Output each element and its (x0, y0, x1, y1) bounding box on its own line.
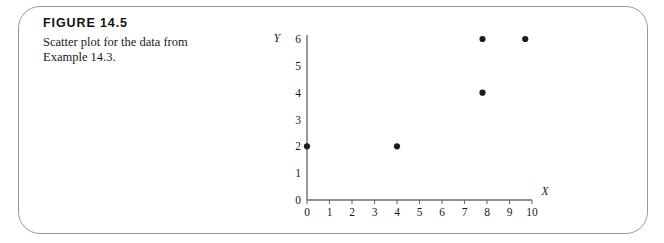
y-tick-label: 4 (295, 87, 301, 99)
data-points (304, 36, 528, 150)
x-axis-label: X (540, 185, 549, 197)
figure-caption-text: Scatter plot for the data from Example 1… (43, 35, 203, 65)
x-tick-label: 3 (372, 206, 378, 218)
y-tick-label: 1 (295, 167, 301, 179)
data-point (479, 36, 485, 42)
x-tick-label: 10 (526, 206, 538, 218)
x-tick-label: 4 (394, 206, 400, 218)
x-tick-label: 5 (417, 206, 423, 218)
x-tick-label: 7 (462, 206, 468, 218)
y-tick-label: 0 (295, 194, 301, 206)
x-tick-label: 6 (439, 206, 445, 218)
y-tick-label: 3 (295, 114, 301, 126)
y-axis-ticks: 0123456 (295, 33, 301, 206)
scatter-plot-svg: 012345678910 0123456 X Y (249, 11, 569, 226)
x-tick-label: 9 (507, 206, 513, 218)
data-point (394, 143, 400, 149)
figure-number-label: FIGURE 14.5 (43, 15, 233, 31)
scatter-plot: 012345678910 0123456 X Y (249, 11, 569, 226)
data-point (479, 90, 485, 96)
x-tick-label: 8 (484, 206, 490, 218)
y-tick-label: 6 (295, 33, 301, 45)
plot-axes (307, 35, 532, 200)
x-tick-label: 2 (349, 206, 355, 218)
figure-caption-block: FIGURE 14.5 Scatter plot for the data fr… (43, 15, 233, 65)
data-point (522, 36, 528, 42)
x-tick-label: 1 (327, 206, 333, 218)
y-axis-label: Y (274, 32, 282, 44)
y-tick-label: 2 (295, 140, 301, 152)
y-tick-label: 5 (295, 60, 301, 72)
data-point (304, 143, 310, 149)
x-axis-ticks: 012345678910 (304, 200, 538, 218)
figure-card: FIGURE 14.5 Scatter plot for the data fr… (18, 6, 648, 234)
x-tick-label: 0 (304, 206, 310, 218)
